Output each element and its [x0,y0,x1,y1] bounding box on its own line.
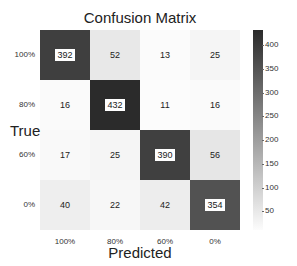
y-axis-title: True [10,122,40,139]
matrix-cell: 56 [190,130,240,180]
matrix-cell: 354 [190,180,240,230]
x-axis-title: Predicted [40,244,240,261]
matrix-cell: 11 [140,80,190,130]
matrix-cell: 40 [40,180,90,230]
cell-value: 25 [208,49,222,61]
colorbar-tick-label: 150 [265,159,278,168]
confusion-matrix: 392521325164321116172539056402242354 [40,30,240,230]
x-tick-label: 80% [90,237,140,246]
y-tick-label: 0% [23,200,35,209]
x-tick-label: 0% [190,237,240,246]
cell-value: 354 [205,199,224,211]
cell-value: 56 [208,149,222,161]
cell-value: 22 [108,199,122,211]
colorbar-tick-label: 100 [265,183,278,192]
colorbar-tick-label: 300 [265,88,278,97]
x-tick-label: 60% [140,237,190,246]
y-tick-label: 60% [19,150,35,159]
matrix-cell: 16 [40,80,90,130]
cell-value: 25 [108,149,122,161]
y-tick-label: 100% [15,50,35,59]
cell-value: 392 [55,49,74,61]
matrix-cell: 17 [40,130,90,180]
matrix-cell: 25 [190,30,240,80]
cell-value: 390 [155,149,174,161]
matrix-cell: 432 [90,80,140,130]
matrix-cell: 25 [90,130,140,180]
chart-title: Confusion Matrix [40,9,240,26]
matrix-cell: 16 [190,80,240,130]
matrix-cell: 22 [90,180,140,230]
cell-value: 16 [58,99,72,111]
cell-value: 16 [208,99,222,111]
cell-value: 52 [108,49,122,61]
cell-value: 17 [58,149,72,161]
matrix-cell: 42 [140,180,190,230]
cell-value: 40 [58,199,72,211]
colorbar-tick-label: 200 [265,135,278,144]
cell-value: 432 [105,99,124,111]
colorbar-tick-label: 250 [265,111,278,120]
matrix-cell: 52 [90,30,140,80]
colorbar-tick-label: 400 [265,40,278,49]
colorbar [253,30,263,230]
matrix-cell: 13 [140,30,190,80]
x-tick-label: 100% [40,237,90,246]
cell-value: 11 [158,99,171,111]
cell-value: 13 [158,49,172,61]
matrix-cell: 392 [40,30,90,80]
cell-value: 42 [158,199,172,211]
colorbar-tick-label: 350 [265,64,278,73]
y-tick-label: 80% [19,100,35,109]
colorbar-tick-label: 50 [265,206,274,215]
matrix-cell: 390 [140,130,190,180]
